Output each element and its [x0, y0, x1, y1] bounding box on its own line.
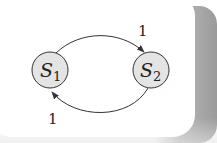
node-s2-label: S	[140, 59, 153, 81]
node-s2: S2	[133, 52, 169, 88]
edge-label-s2-to-s1: 1	[48, 110, 58, 128]
edge-label-s1-to-s2: 1	[138, 22, 148, 40]
node-s1-label: S	[40, 59, 53, 81]
node-s1-subscript: 1	[53, 69, 61, 84]
node-s2-subscript: 2	[153, 69, 161, 84]
edge-s2-to-s1	[52, 88, 148, 113]
edge-s1-to-s2	[56, 36, 144, 53]
node-s1: S1	[32, 52, 68, 88]
state-diagram: 1 1 S1 S2	[0, 0, 217, 143]
